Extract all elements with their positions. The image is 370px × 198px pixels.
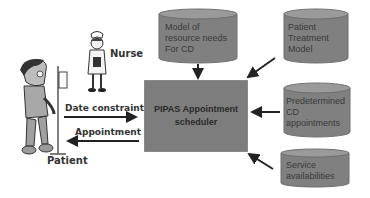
nurse-figure-icon	[82, 30, 112, 94]
datastore-patient-treatment-model: Patient Treatment Model	[283, 8, 349, 64]
datastore-line: Treatment	[288, 33, 329, 44]
datastore-predetermined-appointments: Predetermined CD appointments	[283, 82, 351, 138]
datastore-line: CD	[286, 107, 345, 118]
flow-label-appointment: Appointment	[75, 127, 141, 137]
arrow-treatment-to-scheduler	[248, 58, 275, 77]
arrow-service-to-scheduler	[249, 154, 273, 169]
datastore-service-availabilities: Service availabilities	[280, 148, 350, 188]
datastore-line: For CD	[165, 44, 227, 55]
pipas-scheduler-box: PIPAS Appointment scheduler	[144, 80, 248, 152]
datastore-line: Patient	[288, 22, 329, 33]
datastore-resource-needs: Model of resource needs For CD	[158, 8, 238, 64]
datastore-line: resource needs	[165, 33, 227, 44]
datastore-line: Predetermined	[286, 96, 345, 107]
scheduler-title-line2: scheduler	[154, 116, 238, 129]
scheduler-title-line1: PIPAS Appointment	[154, 103, 238, 116]
nurse-label: Nurse	[110, 48, 143, 59]
datastore-line: Service	[286, 160, 335, 171]
patient-with-iv-icon	[14, 58, 70, 158]
datastore-line: Model of	[165, 22, 227, 33]
datastore-line: availabilities	[286, 171, 335, 182]
flow-label-date-constraints: Date constraints	[65, 103, 149, 113]
datastore-line: appointments	[286, 118, 345, 129]
patient-label: Patient	[47, 155, 88, 166]
datastore-line: Model	[288, 44, 329, 55]
